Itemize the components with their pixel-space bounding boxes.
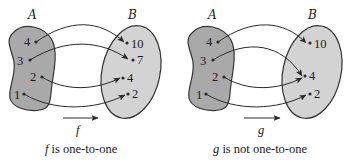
caption-f: f is one-to-one: [45, 142, 118, 156]
dot-a-4: [216, 40, 219, 43]
dot-a-3: [211, 58, 214, 61]
diagram-f: A B 4 3 2 1 10 7 4 2 f f is one-to-one: [9, 8, 169, 156]
elem-b-10: 10: [131, 37, 144, 51]
dot-a-2: [222, 75, 225, 78]
dot-a-4: [34, 40, 37, 43]
dot-b-4: [303, 74, 306, 77]
elem-b-2: 2: [132, 87, 138, 101]
set-b-label: B: [127, 8, 137, 22]
function-label-g: g: [258, 123, 264, 137]
dot-b-2: [126, 92, 129, 95]
elem-a-3: 3: [17, 54, 23, 68]
diagram-g: A B 4 3 2 1 10 4 2 g g is not one-to-one: [188, 8, 350, 156]
caption-g: g is not one-to-one: [213, 142, 308, 156]
dot-a-2: [40, 75, 43, 78]
dot-a-1: [204, 92, 207, 95]
function-label-f: f: [76, 123, 81, 137]
elem-b-4: 4: [127, 71, 134, 85]
dot-a-3: [28, 58, 31, 61]
elem-b-10: 10: [314, 37, 327, 51]
elem-a-2: 2: [30, 70, 36, 84]
dot-b-10: [125, 41, 128, 44]
elem-a-4: 4: [24, 35, 31, 49]
elem-a-3: 3: [200, 54, 206, 68]
elem-b-2: 2: [314, 87, 320, 101]
dot-b-2: [308, 92, 311, 95]
elem-b-7: 7: [137, 53, 143, 67]
elem-a-1: 1: [14, 88, 20, 102]
dot-a-1: [22, 92, 25, 95]
elem-a-1: 1: [196, 88, 202, 102]
function-mapping-figure: A B 4 3 2 1 10 7 4 2 f f is one-to-one A: [0, 0, 351, 160]
dot-b-4: [121, 76, 124, 79]
elem-a-2: 2: [212, 70, 218, 84]
elem-b-4: 4: [309, 69, 316, 83]
set-a-label: A: [27, 8, 37, 22]
elem-a-4: 4: [206, 35, 213, 49]
dot-b-10: [308, 41, 311, 44]
dot-b-7: [131, 58, 134, 61]
set-b-label: B: [307, 8, 317, 22]
set-a-label: A: [207, 8, 217, 22]
